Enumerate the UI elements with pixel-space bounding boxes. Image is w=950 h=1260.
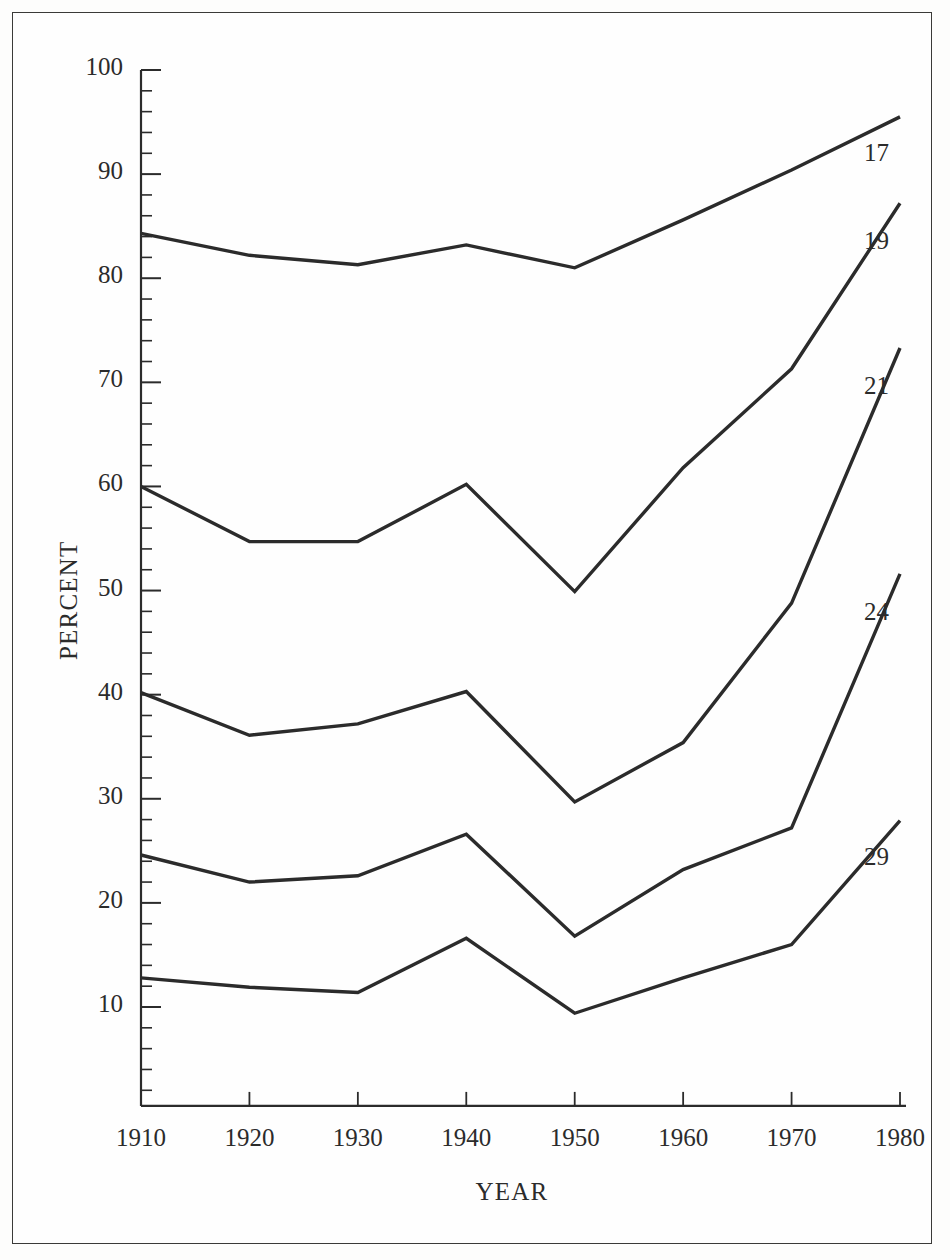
- axes-group: [141, 70, 906, 1106]
- series-line-19: [141, 203, 900, 591]
- x-tick-label-1940: 1940: [411, 1124, 521, 1152]
- y-axis-title: PERCENT: [55, 540, 83, 660]
- x-tick-label-1930: 1930: [303, 1124, 413, 1152]
- y-tick-label-10: 10: [53, 990, 123, 1018]
- x-tick-label-1960: 1960: [628, 1124, 738, 1152]
- y-tick-label-60: 60: [53, 469, 123, 497]
- series-label-21: 21: [864, 372, 889, 400]
- x-tick-label-1980: 1980: [845, 1124, 950, 1152]
- series-line-24: [141, 574, 900, 936]
- y-tick-label-70: 70: [53, 365, 123, 393]
- x-tick-label-1920: 1920: [194, 1124, 304, 1152]
- series-line-29: [141, 821, 900, 1014]
- y-tick-label-20: 20: [53, 886, 123, 914]
- y-tick-label-80: 80: [53, 261, 123, 289]
- y-tick-label-90: 90: [53, 157, 123, 185]
- y-tick-label-100: 100: [53, 53, 123, 81]
- x-tick-label-1910: 1910: [86, 1124, 196, 1152]
- x-tick-label-1970: 1970: [737, 1124, 847, 1152]
- series-label-24: 24: [864, 598, 889, 626]
- series-label-17: 17: [864, 139, 889, 167]
- chart-page: 102030405060708090100 191019201930194019…: [0, 0, 950, 1260]
- y-tick-label-30: 30: [53, 782, 123, 810]
- x-tick-label-1950: 1950: [520, 1124, 630, 1152]
- x-axis-title: YEAR: [476, 1178, 549, 1206]
- series-label-19: 19: [864, 227, 889, 255]
- series-line-21: [141, 348, 900, 802]
- series-line-17: [141, 117, 900, 268]
- series-group: [141, 117, 900, 1013]
- y-tick-label-40: 40: [53, 678, 123, 706]
- line-chart-canvas: [0, 0, 950, 1260]
- series-label-29: 29: [864, 843, 889, 871]
